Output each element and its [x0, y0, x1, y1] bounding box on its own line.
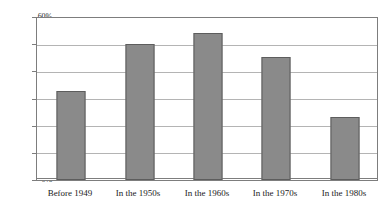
bar-slot-1	[37, 18, 105, 180]
bar-slot-2	[105, 18, 173, 180]
bar-slot-3	[174, 18, 242, 180]
bar-slot-4	[242, 18, 310, 180]
bar-before-1949	[57, 91, 86, 180]
bar-in-the-1950s	[125, 44, 154, 180]
x-axis-label-in-the-1980s: In the 1980s	[304, 188, 384, 198]
bar-in-the-1970s	[262, 57, 291, 180]
x-axis-label-in-the-1970s: In the 1970s	[235, 188, 315, 198]
bar-in-the-1960s	[193, 33, 222, 180]
bar-slot-5	[311, 18, 379, 180]
plot-area	[36, 17, 378, 181]
bar-in-the-1980s	[330, 117, 359, 180]
bar-chart: 60% 50% 40% 30% 20% 10% 0%	[0, 0, 392, 212]
x-axis-label-in-the-1950s: In the 1950s	[98, 188, 178, 198]
